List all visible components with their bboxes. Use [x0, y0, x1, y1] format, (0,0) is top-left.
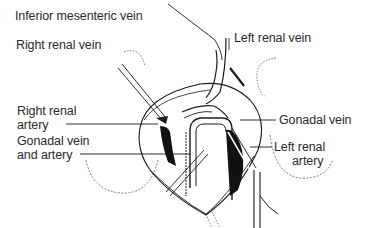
left-kidney-outline-upper	[257, 58, 276, 96]
label-gonadal-vein-and-artery: Gonadal vein and artery	[17, 134, 89, 162]
lower-branch	[260, 196, 278, 214]
right-renal-artery-stump	[156, 116, 168, 124]
anatomy-diagram: Inferior mesenteric vein Right renal vei…	[0, 0, 369, 228]
incision-outline	[139, 83, 261, 215]
right-retractor-line-1	[118, 68, 162, 120]
label-inferior-mesenteric-vein: Inferior mesenteric vein	[15, 9, 143, 23]
label-gonadal-vein: Gonadal vein	[279, 113, 351, 127]
aorta-inner	[196, 124, 226, 186]
inferior-mesenteric-vein-leader	[168, 4, 222, 60]
right-shadow	[160, 126, 176, 166]
left-dark-region	[226, 130, 243, 196]
label-right-renal-artery: Right renal artery	[17, 104, 76, 132]
label-left-renal-artery: Left renal artery	[274, 140, 325, 168]
imv-strand-1	[206, 50, 217, 98]
right-kidney-outline-upper	[124, 51, 145, 66]
incision-inner-edge	[144, 90, 210, 120]
label-left-renal-vein: Left renal vein	[234, 31, 311, 45]
right-retractor-line-2	[122, 64, 166, 118]
label-right-renal-vein: Right renal vein	[16, 38, 101, 52]
dark-vessel-upper-right	[230, 68, 244, 86]
gonadal-vessel-line-2	[170, 154, 208, 196]
